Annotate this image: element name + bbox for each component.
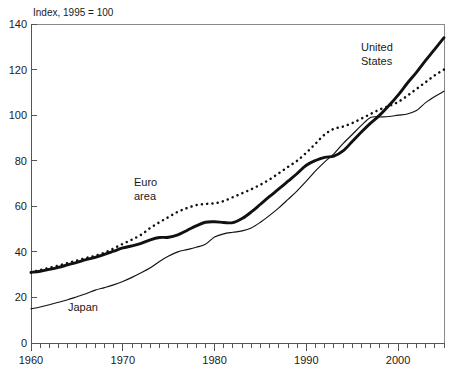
annotation-united-states: United States	[361, 41, 393, 67]
annotation-label-euro-2: area	[134, 190, 157, 202]
plot-axes	[31, 24, 444, 343]
annotation-label-united-states: United	[361, 41, 393, 53]
annotation-euro-area: Euro area	[134, 176, 157, 202]
x-axis-labels: 1960 1970 1980 1990 2000	[19, 354, 411, 366]
y-tick-label: 100	[9, 109, 27, 121]
chart-figure: Index, 1995 = 100 0 20 40 60 80 100 120 …	[0, 0, 461, 382]
y-axis-labels: 0 20 40 60 80 100 120 140	[9, 18, 27, 349]
y-tick-label: 40	[15, 246, 27, 258]
x-tick-label: 1980	[202, 354, 226, 366]
y-tick-label: 140	[9, 18, 27, 30]
y-axis-ticks	[31, 24, 37, 343]
x-tick-label: 2000	[386, 354, 410, 366]
chart-title: Index, 1995 = 100	[33, 7, 114, 18]
series-line-japan	[31, 91, 444, 309]
y-tick-label: 20	[15, 291, 27, 303]
annotation-label-united-states-2: States	[361, 55, 393, 67]
series-line-united-states	[31, 38, 444, 273]
x-tick-label: 1970	[111, 354, 135, 366]
x-axis-ticks	[31, 343, 444, 351]
y-tick-label: 0	[21, 337, 27, 349]
y-tick-label: 120	[9, 64, 27, 76]
line-chart-svg: Index, 1995 = 100 0 20 40 60 80 100 120 …	[0, 0, 461, 382]
x-tick-label: 1960	[19, 354, 43, 366]
annotation-label-japan: Japan	[68, 301, 98, 313]
annotation-label-euro: Euro	[134, 176, 157, 188]
x-tick-label: 1990	[294, 354, 318, 366]
annotation-japan: Japan	[68, 301, 98, 313]
series-line-euro-area	[31, 70, 444, 273]
y-tick-label: 80	[15, 155, 27, 167]
y-tick-label: 60	[15, 200, 27, 212]
plot-frame	[31, 24, 444, 343]
